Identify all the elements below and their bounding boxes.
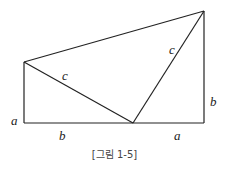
label-bottom-b: b [59,128,66,143]
hypotenuse-left-c [24,62,133,123]
label-bottom-a: a [174,128,181,143]
label-left-a: a [11,113,18,128]
figure-caption: [그림 1-5] [0,146,229,161]
label-hyp-left-c: c [62,68,68,83]
label-right-b: b [210,94,217,109]
label-hyp-right-c: c [169,42,175,57]
